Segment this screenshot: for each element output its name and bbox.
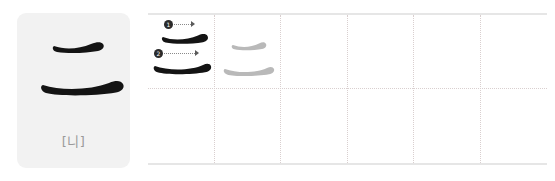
grid-cell-1[interactable]: 1 2 xyxy=(148,15,214,163)
tracing-guide-svg xyxy=(221,27,277,87)
stroke-arrowhead-icon-2 xyxy=(195,50,199,56)
glyph-stroke-2 xyxy=(41,81,124,95)
character-reading-label: [니] xyxy=(17,131,130,150)
glyph-stroke-1 xyxy=(53,42,104,53)
character-glyph-svg xyxy=(17,13,130,131)
practice-grid: 1 2 xyxy=(148,13,547,165)
tracing-stroke-2 xyxy=(224,67,274,76)
grid-bottom-rule xyxy=(148,163,547,165)
stroke-shape-2 xyxy=(152,57,212,77)
stroke-direction-arrow-1 xyxy=(174,24,191,25)
grid-cell-2[interactable] xyxy=(215,15,281,163)
stroke-shape-1 xyxy=(160,28,212,48)
character-card: [니] xyxy=(17,13,130,168)
stroke-arrowhead-icon-1 xyxy=(191,21,195,27)
tracing-guide xyxy=(215,15,281,163)
tracing-stroke-1 xyxy=(232,42,267,50)
worksheet-page: [니] 1 2 xyxy=(0,0,555,181)
grid-cell-6[interactable] xyxy=(481,15,547,163)
grid-cell-5[interactable] xyxy=(414,15,480,163)
grid-cell-4[interactable] xyxy=(348,15,414,163)
stroke-step-2: 2 xyxy=(152,48,212,84)
stroke-direction-arrow-2 xyxy=(164,53,195,54)
grid-cell-3[interactable] xyxy=(281,15,347,163)
character-glyph xyxy=(17,13,130,131)
stroke-order-diagram: 1 2 xyxy=(148,15,214,163)
